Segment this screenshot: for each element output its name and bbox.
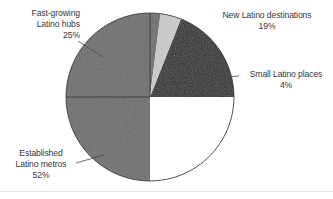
pie-label-line: Latino metros [4, 159, 78, 170]
pie-label-line: New Latino destinations [205, 10, 329, 21]
pie-label-value: 19% [205, 21, 329, 32]
pie-label-established-latino-metros: Established Latino metros 52% [4, 148, 78, 182]
pie-label-line: Latino hubs [8, 19, 80, 30]
pie-label-value: 25% [8, 30, 80, 41]
pie-label-line: Small Latino places [240, 69, 332, 80]
pie-label-fast-growing-latino-hubs: Fast-growing Latino hubs 25% [8, 8, 80, 42]
pie-label-value: 4% [240, 80, 332, 91]
pie-slice-fast-growing-latino-hubs [150, 97, 234, 181]
pie-label-small-latino-places: Small Latino places 4% [240, 69, 332, 91]
footer-divider [0, 191, 333, 192]
pie-label-value: 52% [4, 170, 78, 181]
pie-label-line: Established [4, 148, 78, 159]
pie-label-new-latino-destinations: New Latino destinations 19% [205, 10, 329, 32]
pie-label-line: Fast-growing [8, 8, 80, 19]
